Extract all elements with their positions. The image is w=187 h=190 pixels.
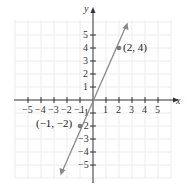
y-tick-label: 4: [83, 42, 88, 53]
x-tick-label: 1: [103, 104, 108, 115]
y-tick-label: −4: [78, 146, 89, 157]
graph-canvas: −5 −4 −3 −2 −1 1 2 3 4 5 5 4 3 2 1 −1 −2…: [0, 0, 187, 190]
x-tick-label: 4: [142, 104, 147, 115]
y-tick-label: 3: [83, 55, 88, 66]
y-axis-label: y: [83, 3, 89, 14]
point-label-neg1-neg2: (−1, −2): [36, 117, 73, 130]
axes: [14, 7, 179, 183]
line-arrow-up-icon: [123, 23, 129, 31]
x-axis-label: x: [175, 95, 181, 106]
x-tick-label: −2: [61, 104, 72, 115]
y-tick-label: 5: [83, 29, 88, 40]
y-tick-label: 2: [83, 68, 88, 79]
x-tick-label: −3: [48, 104, 59, 115]
y-axis-arrow-icon: [91, 7, 96, 13]
x-tick-label: 3: [129, 104, 134, 115]
line-series: [60, 23, 129, 176]
point-neg1-neg2: [78, 124, 83, 129]
point-2-4: [117, 46, 122, 51]
x-tick-label: −4: [35, 104, 46, 115]
point-label-2-4: (2, 4): [123, 41, 147, 54]
line-arrow-down-icon: [60, 168, 66, 176]
x-tick-label: −5: [22, 104, 33, 115]
y-tick-label: −5: [78, 159, 89, 170]
x-tick-label: 5: [155, 104, 160, 115]
y-tick-label: −3: [78, 133, 89, 144]
y-tick-label: 1: [83, 81, 88, 92]
x-tick-label: 2: [116, 104, 121, 115]
